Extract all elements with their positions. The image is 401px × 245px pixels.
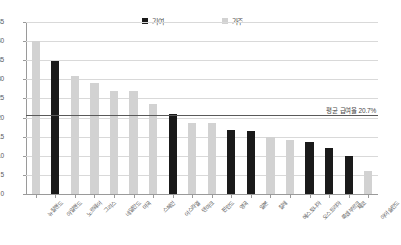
x-tick-mark (212, 195, 213, 198)
y-tick-label: 45 (0, 18, 4, 25)
x-axis-category-label: 노르웨이 (84, 199, 103, 218)
x-tick-mark (55, 195, 56, 198)
x-tick-mark (329, 195, 330, 198)
y-tick-label: 40 (0, 37, 4, 44)
x-axis-category-label: 일본 (258, 199, 270, 211)
average-reference-line-label: 평균 급여율 20.7% (326, 105, 376, 115)
x-axis-category-label: 칠레 (277, 199, 289, 211)
x-axis-category-label: 아이슬란드 (379, 199, 401, 221)
x-tick-mark (75, 195, 76, 198)
y-tick-label: 35 (0, 56, 4, 63)
y-tick-label: 10 (0, 152, 4, 159)
x-tick-mark (192, 195, 193, 198)
x-axis-category-label: 덴마크 (200, 199, 216, 215)
x-tick-mark (173, 195, 174, 198)
x-tick-mark (134, 195, 135, 198)
x-axis-category-label: 그리스 (103, 199, 119, 215)
plot-area: 평균 급여율 20.7% (26, 22, 378, 194)
x-axis-category-label: 아일랜드 (65, 199, 84, 218)
x-tick-mark (36, 195, 37, 198)
y-tick-label: 0 (1, 190, 4, 197)
y-tick-label: 20 (0, 114, 4, 121)
x-tick-mark (114, 195, 115, 198)
x-tick-mark (94, 195, 95, 198)
x-tick-mark (368, 195, 369, 198)
reference-line-container: 평균 급여율 20.7% (26, 22, 378, 194)
x-axis-category-label: 에스토니아 (301, 199, 323, 221)
x-axis-category-label: 이스라엘 (182, 199, 201, 218)
x-axis-category-label: 핀란드 (220, 199, 236, 215)
x-tick-mark (290, 195, 291, 198)
x-tick-mark (270, 195, 271, 198)
x-axis-category-label: 오스트리아 (320, 199, 342, 221)
average-reference-line (26, 115, 378, 116)
x-tick-mark (349, 195, 350, 198)
x-axis-line (26, 194, 378, 195)
y-tick-label: 25 (0, 94, 4, 101)
x-axis-category-label: 네덜란드 (124, 199, 143, 218)
x-axis-category-label: 스페인 (161, 199, 177, 215)
x-tick-mark (153, 195, 154, 198)
x-axis-category-label: 미국 (140, 199, 152, 211)
y-tick-label: 5 (1, 171, 4, 178)
x-tick-mark (231, 195, 232, 198)
x-axis-category-label: 영국 (238, 199, 250, 211)
y-tick-label: 30 (0, 75, 4, 82)
x-tick-mark (310, 195, 311, 198)
x-tick-mark (251, 195, 252, 198)
x-axis-category-label: 뉴질랜드 (45, 199, 64, 218)
y-tick-label: 15 (0, 133, 4, 140)
